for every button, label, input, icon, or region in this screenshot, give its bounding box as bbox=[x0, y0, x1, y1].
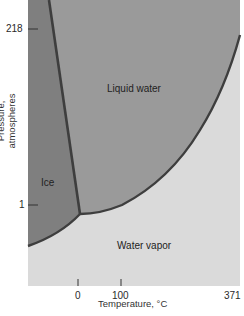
phase-diagram-plot bbox=[0, 0, 244, 316]
water-vapor-label: Water vapor bbox=[117, 240, 171, 251]
x-tick-label-371: 371 bbox=[224, 290, 241, 301]
ice-label: Ice bbox=[41, 177, 54, 188]
y-axis-title: Pressure, atmospheres bbox=[0, 75, 17, 167]
phase-diagram: 218 1 0 100 371 Liquid water Ice Water v… bbox=[0, 0, 244, 316]
x-axis-title: Temperature, °C bbox=[98, 298, 167, 309]
y-tick-label-1: 1 bbox=[19, 199, 25, 210]
liquid-water-label: Liquid water bbox=[107, 83, 161, 94]
y-tick-label-218: 218 bbox=[6, 23, 23, 34]
x-tick-label-0: 0 bbox=[75, 290, 81, 301]
